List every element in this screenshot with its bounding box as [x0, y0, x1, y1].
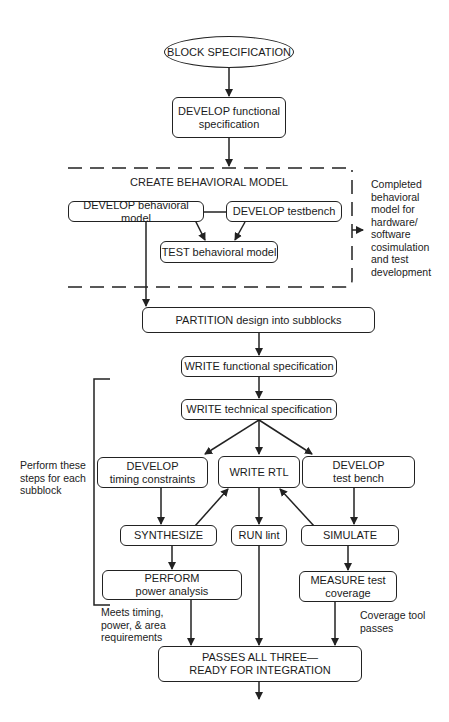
write-functional-spec-node: WRITE functional specification	[181, 356, 337, 377]
node-label: DEVELOP functional	[178, 105, 280, 118]
block-specification-node: BLOCK SPECIFICATION	[164, 36, 294, 68]
node-label: DEVELOP testbench	[233, 205, 336, 218]
perform-power-analysis-node: PERFORM power analysis	[102, 570, 242, 600]
node-label: TEST behavioral model	[162, 246, 277, 259]
synthesize-node: SYNTHESIZE	[120, 525, 217, 546]
develop-behavioral-model-node: DEVELOP behavioral model	[68, 201, 204, 222]
node-label: specification	[199, 118, 260, 131]
node-label: BLOCK SPECIFICATION	[167, 46, 291, 58]
develop-functional-spec-node: DEVELOP functional specification	[172, 97, 286, 138]
measure-test-coverage-node: MEASURE test coverage	[299, 571, 397, 602]
run-lint-node: RUN lint	[231, 525, 287, 546]
node-label: WRITE functional specification	[184, 360, 333, 373]
node-label: DEVELOP behavioral model	[69, 199, 203, 225]
subblock-note: Perform these steps for each subblock	[20, 459, 86, 497]
behavioral-group-title: CREATE BEHAVIORAL MODEL	[130, 176, 288, 188]
coverage-note: Coverage tool passes	[360, 609, 425, 634]
test-behavioral-model-node: TEST behavioral model	[160, 241, 278, 263]
timing-requirements-note: Meets timing, power, & area requirements	[101, 606, 166, 644]
write-technical-spec-node: WRITE technical specification	[181, 399, 337, 420]
develop-test-bench-node: DEVELOP test bench	[302, 456, 415, 488]
simulate-node: SIMULATE	[301, 525, 399, 546]
develop-timing-constraints-node: DEVELOP timing constraints	[97, 457, 208, 488]
partition-node: PARTITION design into subblocks	[142, 307, 375, 333]
behavioral-output-note: Completed behavioral model for hardware/…	[371, 178, 431, 278]
node-label: WRITE technical specification	[186, 403, 332, 416]
write-rtl-node: WRITE RTL	[218, 456, 300, 488]
node-label: PARTITION design into subblocks	[176, 314, 342, 327]
ready-for-integration-node: PASSES ALL THREE— READY FOR INTEGRATION	[158, 646, 362, 682]
develop-testbench-node: DEVELOP testbench	[226, 201, 342, 222]
